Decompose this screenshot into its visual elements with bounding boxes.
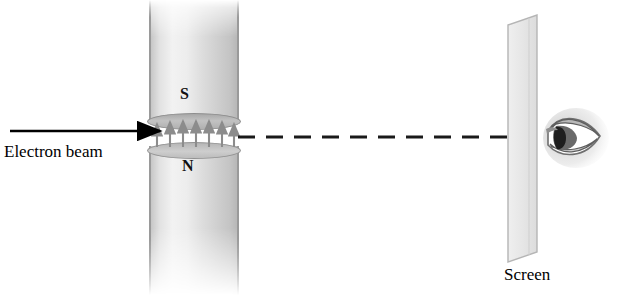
electron-beam-label: Electron beam: [4, 143, 103, 162]
screen-label: Screen: [504, 266, 550, 285]
eye-icon: [543, 108, 609, 168]
screen-face: [508, 15, 537, 262]
magnetic-field-arrows: [157, 121, 234, 147]
physics-diagram-figure: S N: [0, 0, 622, 295]
screen-panel: [508, 15, 537, 262]
